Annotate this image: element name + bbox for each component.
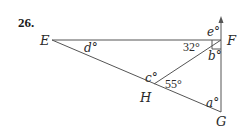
angle-label-e: e° [207,25,220,39]
geometry-diagram: 26. E F G H d° 32° e° b° c° 55° a° [0,0,241,130]
problem-number: 26. [18,15,34,30]
angle-label-55: 55° [165,77,182,91]
point-label-E: E [39,33,50,48]
angle-label-c: c° [145,71,158,85]
arrow-up-icon [219,16,224,23]
point-label-G: G [216,114,226,129]
point-label-H: H [139,90,152,105]
angle-label-d: d° [84,41,98,55]
angle-label-a: a° [206,96,219,110]
point-label-F: F [226,33,237,48]
angle-label-32: 32° [183,40,200,54]
angle-label-b: b° [208,49,222,63]
